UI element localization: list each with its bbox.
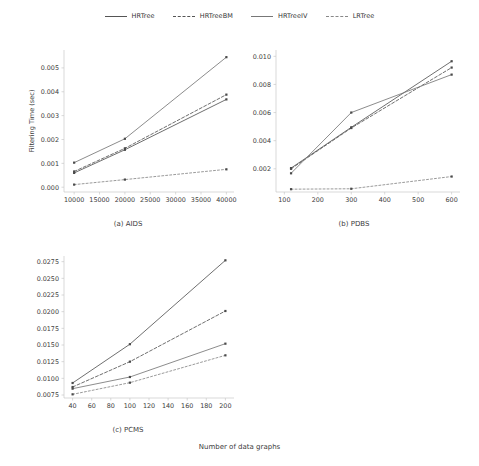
x-tick-label: 15000	[89, 196, 109, 204]
x-tick-label: 160	[181, 402, 193, 410]
series-line-lrtree	[291, 177, 452, 190]
data-point-hrtreebm	[350, 127, 352, 129]
data-point-hrtreeiv	[224, 343, 226, 345]
y-tick-label: 0.0250	[37, 275, 59, 283]
x-tick-label: 40000	[216, 196, 236, 204]
x-tick-label: 35000	[191, 196, 211, 204]
panel-pcms: 4060801001201401601802000.00750.01000.01…	[18, 248, 240, 420]
y-axis-title: Filtering Time (sec)	[28, 89, 36, 152]
plot-aids: 100001500020000250003000035000400000.000…	[18, 42, 240, 214]
series-line-hrtreebm	[73, 311, 226, 387]
x-tick-label: 80	[107, 402, 115, 410]
data-point-hrtreebm	[129, 361, 131, 363]
y-tick-label: 0.002	[253, 165, 271, 173]
x-tick-label: 140	[162, 402, 174, 410]
data-point-hrtreebm	[225, 94, 227, 96]
data-point-lrtree	[290, 188, 292, 190]
y-tick-label: 0.0150	[37, 341, 59, 349]
legend-entry-hrtree: HRTree	[105, 12, 155, 20]
series-line-hrtree	[73, 260, 226, 383]
y-tick-label: 0.0075	[37, 391, 59, 399]
legend-entry-hrtreeiv: HRTreeIV	[251, 12, 308, 20]
data-point-hrtreeiv	[290, 172, 292, 174]
legend-entry-lrtree: LRTree	[326, 12, 375, 20]
plot-pcms: 4060801001201401601802000.00750.01000.01…	[18, 248, 240, 420]
x-tick-label: 300	[345, 196, 357, 204]
y-tick-label: 0.0175	[37, 325, 59, 333]
x-tick-label: 120	[143, 402, 155, 410]
legend-label-lrtree: LRTree	[353, 12, 375, 20]
panel-aids-caption: (a) AIDS	[58, 220, 198, 228]
data-point-hrtreeiv	[129, 376, 131, 378]
series-line-hrtree	[74, 99, 226, 173]
x-tick-label: 25000	[140, 196, 160, 204]
x-tick-label: 40	[69, 402, 77, 410]
legend-swatch-lrtree	[326, 16, 348, 17]
series-line-hrtreeiv	[74, 57, 226, 162]
legend-swatch-hrtreebm	[173, 16, 195, 17]
legend-entry-hrtreebm: HRTreeBM	[173, 12, 233, 20]
data-point-hrtreebm	[73, 170, 75, 172]
figure-root: HRTreeHRTreeBMHRTreeIVLRTree 10000150002…	[0, 0, 479, 466]
series-line-hrtreeiv	[291, 75, 452, 174]
x-tick-label: 100	[278, 196, 290, 204]
panel-pdbs-caption: (b) PDBS	[284, 220, 424, 228]
data-point-hrtreebm	[290, 168, 292, 170]
panel-aids: 100001500020000250003000035000400000.000…	[18, 42, 240, 214]
plot-pdbs: 1002003004005006000.0020.0040.0060.0080.…	[244, 42, 466, 214]
data-point-lrtree	[451, 175, 453, 177]
data-point-hrtree	[451, 60, 453, 62]
y-tick-label: 0.005	[41, 64, 59, 72]
y-tick-label: 0.010	[253, 53, 271, 61]
series-line-hrtreeiv	[73, 344, 226, 389]
data-point-hrtreeiv	[124, 138, 126, 140]
data-point-hrtreeiv	[350, 111, 352, 113]
y-tick-label: 0.0100	[37, 375, 59, 383]
series-line-hrtree	[291, 61, 452, 168]
data-point-hrtree	[225, 98, 227, 100]
x-tick-label: 200	[219, 402, 231, 410]
series-line-hrtreebm	[291, 68, 452, 169]
y-tick-label: 0.0125	[37, 358, 59, 366]
series-line-lrtree	[74, 169, 226, 184]
data-point-hrtreebm	[224, 310, 226, 312]
data-point-hrtreeiv	[73, 162, 75, 164]
legend-label-hrtreebm: HRTreeBM	[200, 12, 233, 20]
y-tick-label: 0.004	[41, 88, 59, 96]
data-point-hrtreeiv	[71, 388, 73, 390]
x-tick-label: 200	[312, 196, 324, 204]
data-point-hrtreeiv	[225, 56, 227, 58]
x-tick-label: 400	[379, 196, 391, 204]
x-tick-label: 600	[446, 196, 458, 204]
y-tick-label: 0.003	[41, 112, 59, 120]
y-tick-label: 0.0275	[37, 258, 59, 266]
data-point-hrtreeiv	[451, 74, 453, 76]
legend-label-hrtree: HRTree	[132, 12, 155, 20]
x-tick-label: 180	[200, 402, 212, 410]
panel-pdbs: 1002003004005006000.0020.0040.0060.0080.…	[244, 42, 466, 214]
data-point-lrtree	[224, 354, 226, 356]
x-tick-label: 100	[124, 402, 136, 410]
figure-xlabel: Number of data graphs	[0, 443, 479, 451]
x-tick-label: 60	[88, 402, 96, 410]
legend-swatch-hrtreeiv	[251, 16, 273, 17]
y-tick-label: 0.002	[41, 136, 59, 144]
x-tick-label: 500	[412, 196, 424, 204]
y-tick-label: 0.001	[41, 160, 59, 168]
series-line-lrtree	[73, 355, 226, 394]
x-tick-label: 10000	[64, 196, 84, 204]
data-point-hrtree	[129, 343, 131, 345]
y-tick-label: 0.008	[253, 81, 271, 89]
chart-legend: HRTreeHRTreeBMHRTreeIVLRTree	[0, 12, 479, 20]
legend-swatch-hrtree	[105, 16, 127, 17]
y-tick-label: 0.006	[253, 109, 271, 117]
data-point-hrtreebm	[124, 147, 126, 149]
data-point-lrtree	[350, 188, 352, 190]
data-point-lrtree	[129, 382, 131, 384]
y-tick-label: 0.004	[253, 137, 271, 145]
legend-label-hrtreeiv: HRTreeIV	[278, 12, 308, 20]
data-point-hrtree	[71, 382, 73, 384]
y-tick-label: 0.000	[41, 184, 59, 192]
y-tick-label: 0.0225	[37, 291, 59, 299]
data-point-lrtree	[73, 184, 75, 186]
